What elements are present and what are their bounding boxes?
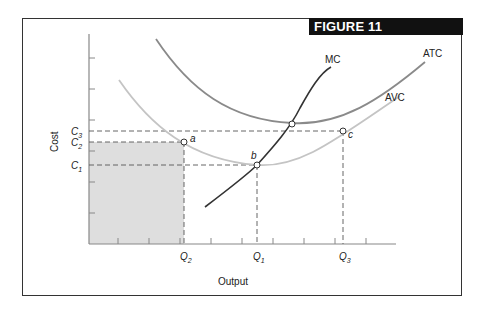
point-atc-min bbox=[289, 121, 295, 127]
c1-label: C1 bbox=[71, 160, 82, 173]
point-b bbox=[254, 162, 260, 168]
q2-label: Q2 bbox=[180, 251, 192, 264]
point-b-label: b bbox=[251, 150, 257, 161]
q3-label: Q3 bbox=[339, 251, 351, 264]
q1-label: Q1 bbox=[253, 251, 265, 264]
avc-label: AVC bbox=[385, 92, 405, 103]
x-axis-title: Output bbox=[218, 276, 248, 287]
cost-curves-chart: MC ATC AVC a b c C3 C2 C1 Q2 Q1 Q3 Outpu… bbox=[0, 0, 483, 311]
point-c bbox=[340, 128, 346, 134]
mc-curve bbox=[205, 67, 331, 207]
point-a bbox=[181, 139, 187, 145]
point-c-label: c bbox=[348, 129, 353, 140]
y-axis-title: Cost bbox=[49, 131, 60, 152]
shaded-area bbox=[89, 142, 184, 244]
atc-curve bbox=[156, 39, 425, 123]
atc-label: ATC bbox=[423, 48, 442, 59]
mc-label: MC bbox=[325, 54, 341, 65]
point-a-label: a bbox=[190, 133, 196, 144]
